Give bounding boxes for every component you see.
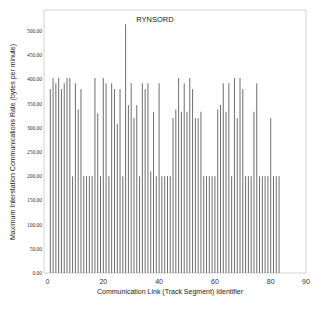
y-tick-label: 350.00 — [27, 101, 42, 107]
y-tick-label: 400.00 — [27, 76, 42, 82]
y-tick-label: 250.00 — [27, 149, 42, 155]
x-tick-label: 90 — [302, 278, 310, 285]
y-tick-label: 100.00 — [27, 222, 42, 228]
y-axis: 0.0050.00100.00150.00200.00250.00300.003… — [27, 28, 42, 276]
y-tick-label: 500.00 — [27, 28, 42, 34]
y-tick-label: 50.00 — [30, 246, 43, 252]
x-tick-label: 40 — [155, 278, 163, 285]
x-tick-label: 0 — [46, 278, 50, 285]
y-axis-title: Maximum Interstation Communications Rate… — [9, 44, 17, 240]
x-tick-label: 80 — [267, 278, 275, 285]
y-tick-label: 200.00 — [27, 173, 42, 179]
x-tick-label: 60 — [211, 278, 219, 285]
y-tick-label: 450.00 — [27, 52, 42, 58]
chart-title: RYNSORD — [136, 15, 174, 24]
bar-chart: 0.0050.00100.00150.00200.00250.00300.003… — [0, 0, 321, 310]
y-tick-label: 0.00 — [32, 270, 42, 276]
x-axis: 02040608090 — [46, 278, 310, 285]
x-axis-title: Communication Link (Track Segment) Ident… — [97, 288, 244, 296]
y-tick-label: 150.00 — [27, 197, 42, 203]
y-tick-label: 300.00 — [27, 125, 42, 131]
x-tick-label: 20 — [99, 278, 107, 285]
